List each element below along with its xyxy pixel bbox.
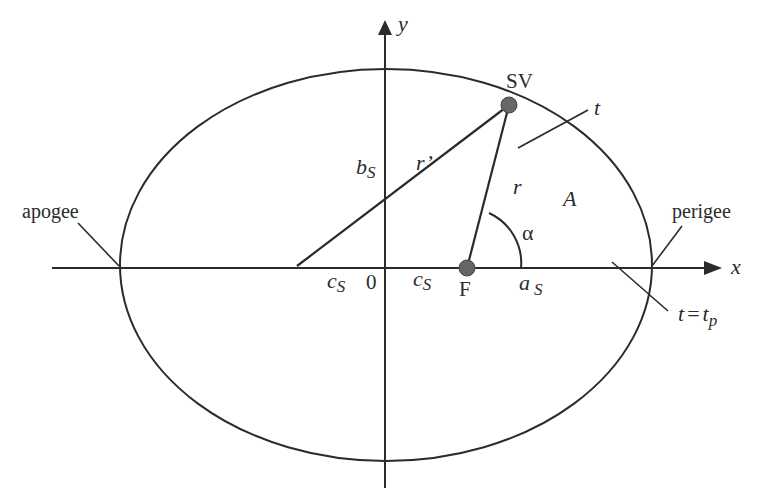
semi-major-label: aS bbox=[519, 270, 543, 299]
apogee-label: apogee bbox=[22, 200, 79, 223]
satellite-dot bbox=[501, 97, 517, 113]
focus-label: F bbox=[459, 277, 471, 301]
apogee-pointer bbox=[78, 223, 119, 266]
c-left-label: cS bbox=[327, 268, 346, 296]
y-axis-arrow-icon bbox=[378, 20, 392, 35]
y-axis-label: y bbox=[396, 11, 408, 36]
focus-dot bbox=[459, 260, 475, 276]
alpha-label: α bbox=[522, 220, 534, 245]
x-axis-label: x bbox=[730, 254, 741, 279]
perigee-pointer bbox=[652, 226, 682, 266]
c-right-label: cS bbox=[413, 266, 432, 294]
r-prime-label: r’ bbox=[416, 150, 433, 175]
area-label: A bbox=[561, 186, 577, 211]
r-line bbox=[467, 105, 509, 268]
origin-label: 0 bbox=[366, 270, 377, 294]
time-label: t bbox=[594, 95, 601, 120]
semi-minor-label: bS bbox=[356, 154, 376, 182]
alpha-arc bbox=[489, 213, 521, 268]
perigee-label: perigee bbox=[672, 200, 731, 223]
t-tp-pointer bbox=[612, 262, 668, 311]
r-label: r bbox=[513, 174, 522, 199]
x-axis-arrow-icon bbox=[704, 261, 722, 275]
t-equals-tp-label: t=tp bbox=[678, 301, 717, 330]
orbit-diagram: y x apogee perigee SV t bS r’ r A α cS 0… bbox=[0, 0, 766, 501]
satellite-label: SV bbox=[506, 69, 533, 93]
r-prime-line bbox=[297, 105, 509, 266]
